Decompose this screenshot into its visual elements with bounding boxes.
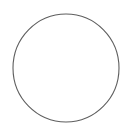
shape-canvas-svg bbox=[0, 0, 140, 135]
drawing-canvas[interactable] bbox=[0, 0, 140, 135]
